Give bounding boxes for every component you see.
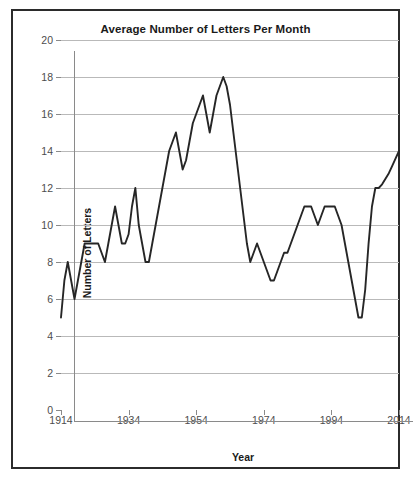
series-line (0, 0, 389, 460)
chart-frame: Average Number of Letters Per Month Numb… (11, 9, 400, 469)
